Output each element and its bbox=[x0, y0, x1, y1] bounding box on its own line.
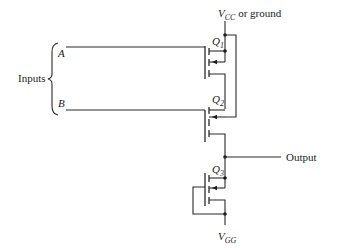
ground-supply-label: VGG bbox=[218, 230, 237, 245]
transistor-q2: Q2 bbox=[205, 93, 226, 157]
q3-body-arrow bbox=[212, 186, 217, 190]
svg-text:Q2: Q2 bbox=[212, 93, 224, 108]
svg-text:VCC or ground: VCC or ground bbox=[218, 7, 282, 22]
inputs-label: Inputs bbox=[18, 72, 46, 84]
q2-body-arrow bbox=[212, 115, 217, 119]
inputs-brace bbox=[48, 43, 58, 115]
output-label: Output bbox=[286, 151, 317, 163]
substrate-bus-wire bbox=[225, 35, 236, 117]
transistor-q3: Q3 bbox=[193, 157, 227, 216]
input-b-label: B bbox=[58, 97, 65, 109]
svg-text:VGG: VGG bbox=[218, 230, 237, 245]
q1-body-arrow bbox=[212, 60, 217, 64]
input-a-label: A bbox=[57, 47, 65, 59]
svg-text:Q3: Q3 bbox=[212, 163, 224, 178]
circuit-diagram: VCC or ground Q1 Q bbox=[0, 0, 342, 248]
supply-label: VCC or ground bbox=[218, 7, 282, 22]
svg-text:Q1: Q1 bbox=[212, 35, 224, 50]
